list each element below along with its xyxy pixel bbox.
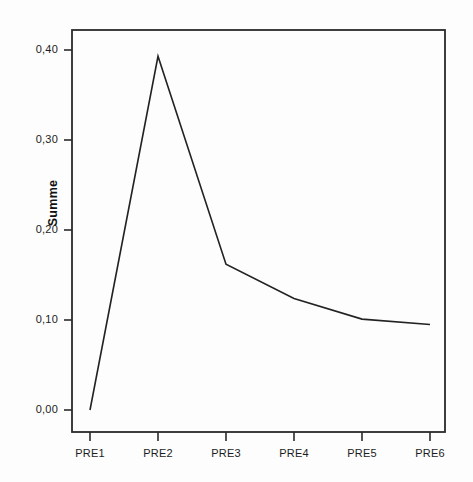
x-tick-label-pre5: PRE5	[332, 447, 392, 459]
data-line-summe	[90, 56, 430, 410]
x-tick-label-pre6: PRE6	[400, 447, 460, 459]
y-tick-label-030: 0,30	[18, 133, 58, 145]
x-axis-ticks	[90, 432, 430, 441]
y-tick-label-000: 0,00	[18, 403, 58, 415]
chart-figure: 0,40 0,30 0,20 0,10 0,00 PRE1 PRE2 PRE3 …	[0, 0, 473, 482]
y-axis-ticks	[64, 50, 72, 410]
x-tick-label-pre1: PRE1	[60, 447, 120, 459]
plot-frame	[72, 30, 445, 432]
line-chart-canvas	[0, 0, 473, 482]
x-tick-label-pre4: PRE4	[264, 447, 324, 459]
y-axis-title: Summe	[46, 163, 60, 243]
y-tick-label-010: 0,10	[18, 313, 58, 325]
y-tick-label-040: 0,40	[18, 43, 58, 55]
x-tick-label-pre2: PRE2	[128, 447, 188, 459]
x-tick-label-pre3: PRE3	[196, 447, 256, 459]
